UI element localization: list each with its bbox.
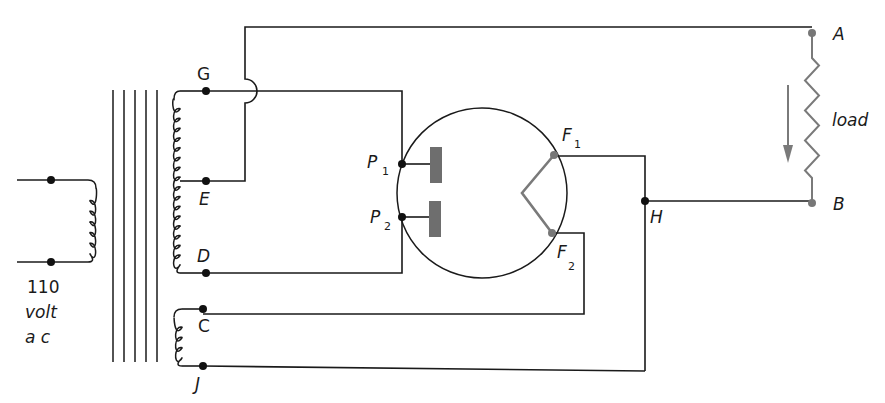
primary-terminal-top <box>47 176 55 184</box>
terminal-h <box>641 197 649 205</box>
label-p2: P <box>370 207 381 227</box>
plate-1 <box>430 147 442 183</box>
terminal-c <box>199 305 207 313</box>
label-f2-sub: 2 <box>568 260 575 273</box>
label-a: A <box>832 24 845 44</box>
tube-envelope <box>397 108 567 278</box>
terminal-f1 <box>550 151 558 159</box>
label-d: D <box>197 246 210 266</box>
terminal-b <box>808 199 816 207</box>
rectifier-tube <box>397 108 567 278</box>
terminal-f2 <box>548 229 556 237</box>
supply-ac-label: a c <box>25 327 51 347</box>
resistor-zigzag <box>805 33 819 203</box>
load-resistor <box>783 29 819 207</box>
primary-terminal-bottom <box>47 258 55 266</box>
terminal-d <box>202 269 210 277</box>
primary-coil <box>88 180 97 262</box>
hv-coil <box>173 91 180 273</box>
primary-winding <box>17 176 97 266</box>
current-arrow-icon <box>783 145 793 163</box>
label-j: J <box>192 374 200 394</box>
label-g: G <box>197 64 210 84</box>
filament <box>522 155 554 233</box>
label-f1-sub: 1 <box>574 138 581 151</box>
terminal-a <box>808 29 816 37</box>
supply-voltage-label: 110 <box>27 277 59 297</box>
rectifier-circuit-diagram: 110 volt a c G E D C J H <box>0 0 885 403</box>
label-p1-sub: 1 <box>382 165 389 178</box>
label-f2: F <box>557 242 567 262</box>
label-c: C <box>198 316 210 336</box>
label-p1: P <box>367 152 378 172</box>
filament-coil <box>174 309 182 366</box>
plate-2 <box>429 201 441 237</box>
load-label: load <box>832 110 869 130</box>
supply-volt-label: volt <box>25 302 58 322</box>
terminal-p2 <box>398 213 406 221</box>
terminal-p1 <box>398 160 406 168</box>
wire-j-to-h <box>203 366 645 371</box>
wire-e-to-a <box>206 27 812 181</box>
label-h: H <box>650 207 663 227</box>
label-p2-sub: 2 <box>384 220 391 233</box>
transformer-core <box>113 90 157 362</box>
label-f1: F <box>562 125 572 145</box>
label-e: E <box>199 189 210 209</box>
terminal-j <box>199 362 207 370</box>
terminal-g <box>202 87 210 95</box>
terminal-e <box>202 177 210 185</box>
label-b: B <box>833 194 845 214</box>
